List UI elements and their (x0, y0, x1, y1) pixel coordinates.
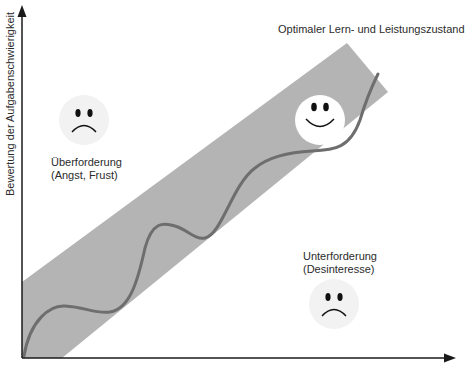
overload-label-line2: (Angst, Frust) (51, 169, 122, 182)
underload-label-line2: (Desinteresse) (303, 263, 377, 276)
overload-label-line1: Überforderung (51, 156, 122, 169)
y-axis-label: Bewertung der Aufgabenschwierigkeit (4, 12, 16, 196)
underload-label: Unterforderung (Desinteresse) (303, 250, 377, 276)
underload-label-line1: Unterforderung (303, 250, 377, 263)
overload-label: Überforderung (Angst, Frust) (51, 156, 122, 182)
sad-face-icon-overload (59, 95, 109, 145)
optimal-state-label: Optimaler Lern- und Leistungszustand (278, 23, 465, 36)
x-axis-arrow-icon (444, 354, 456, 363)
happy-face-icon-optimal (295, 95, 345, 145)
y-axis-arrow-icon (18, 5, 27, 17)
sad-face-icon-underload (309, 279, 359, 329)
